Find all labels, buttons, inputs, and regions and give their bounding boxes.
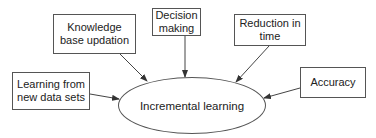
node-reduction-in-time: Reduction in time: [234, 14, 306, 46]
node-knowledge-base-updation: Knowledge base updation: [53, 14, 136, 54]
node-decision-making: Decision making: [152, 8, 201, 36]
node-label-line2: making: [159, 22, 194, 35]
node-label-line2: base updation: [60, 34, 129, 47]
node-label-line1: Reduction in: [239, 17, 300, 30]
arrow-knowledge: [120, 54, 147, 81]
node-label-line2: time: [260, 30, 281, 43]
center-node-incremental-learning: Incremental learning: [118, 77, 266, 134]
arrow-accuracy: [264, 88, 300, 98]
node-label-line1: Learning from: [17, 78, 85, 91]
node-accuracy: Accuracy: [300, 67, 366, 98]
node-label-line1: Knowledge: [67, 21, 121, 34]
node-label-line1: Decision: [155, 9, 197, 22]
node-learning-from-new-data-sets: Learning from new data sets: [12, 72, 90, 110]
arrow-reduction: [236, 46, 269, 82]
node-label-line2: new data sets: [17, 91, 85, 104]
center-label: Incremental learning: [140, 100, 244, 112]
arrow-learning: [90, 94, 119, 99]
node-label-line1: Accuracy: [310, 76, 355, 89]
